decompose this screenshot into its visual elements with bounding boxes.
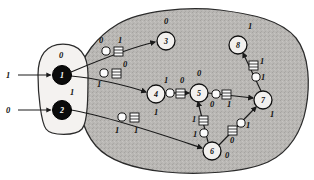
- input-label-in1: 1: [6, 70, 10, 80]
- node-label-8: 8: [236, 41, 240, 50]
- token-rect-label-e7-8: 1: [260, 56, 264, 66]
- node-label-6: 6: [210, 147, 214, 156]
- token-circle-e6-5: [200, 129, 208, 137]
- token-rect-e7-8: [249, 61, 258, 70]
- token-rect-e1-4: [112, 69, 121, 78]
- token-rect-label-e2-6: 1: [134, 125, 138, 135]
- token-circle-e4-5: [166, 89, 174, 97]
- token-circle-label-e6-5: 1: [193, 129, 197, 139]
- node-state-7: 1: [270, 109, 274, 119]
- node-label-4: 4: [153, 90, 158, 99]
- input-label-in0: 0: [6, 105, 11, 115]
- token-rect-e1-3: [114, 47, 123, 56]
- graph-diagram: 10 0110111001111011 1021304150607181: [0, 0, 314, 180]
- figure-canvas: 10 0110111001111011 1021304150607181: [0, 0, 314, 180]
- token-circle-e1-4: [100, 69, 108, 77]
- token-circle-e7-8: [252, 73, 260, 81]
- token-circle-label-e7-8: 1: [261, 72, 265, 82]
- token-rect-label-e5-7: 1: [227, 99, 231, 109]
- node-label-2: 2: [59, 106, 64, 115]
- token-circle-e1-3: [102, 47, 110, 55]
- token-circle-label-e4-5: 1: [164, 75, 168, 85]
- node-label-5: 5: [197, 89, 201, 98]
- token-circle-e6-7: [237, 119, 245, 127]
- token-circle-e2-6: [118, 113, 126, 121]
- token-circle-label-e1-4: 1: [97, 79, 101, 89]
- token-rect-e5-7: [222, 90, 231, 99]
- node-state-2: 1: [70, 87, 74, 97]
- token-rect-e6-5: [199, 116, 208, 125]
- node-label-1: 1: [60, 71, 64, 80]
- token-rect-e2-6: [130, 113, 139, 122]
- node-state-4: 1: [154, 107, 158, 117]
- token-circle-label-e6-7: 1: [246, 120, 250, 130]
- token-circle-label-e2-6: 1: [115, 125, 119, 135]
- token-rect-e6-7: [228, 126, 237, 135]
- node-label-3: 3: [163, 37, 168, 46]
- token-circle-e5-7: [212, 90, 220, 98]
- token-rect-label-e1-3: 1: [118, 35, 122, 45]
- token-rect-label-e6-5: 1: [192, 114, 196, 124]
- token-rect-e4-5: [176, 89, 185, 98]
- node-state-8: 1: [248, 21, 252, 31]
